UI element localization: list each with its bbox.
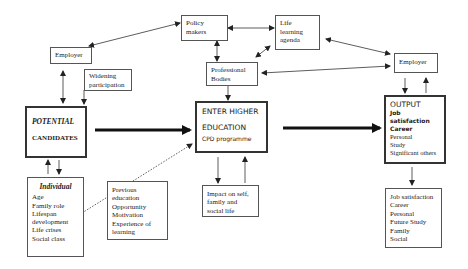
previous-line-5: Experience of — [112, 220, 163, 228]
policy-line-2: makers — [186, 28, 223, 37]
impact-line-1: Impact on self, — [207, 190, 254, 198]
lifelearning-line-2: learning — [280, 28, 315, 37]
output-line-3: Significant others — [390, 149, 440, 157]
output-title: OUTPUT — [390, 100, 440, 109]
employer-right-label: Employer — [399, 58, 433, 67]
widening-line-1: Widening — [89, 72, 127, 81]
individual-line-2: Family role — [32, 202, 79, 210]
potential-line-1: POTENTIAL — [32, 118, 81, 127]
outcomes-box: Job satisfaction Career Personal Future … — [385, 188, 442, 248]
impact-line-2: family and — [207, 198, 254, 206]
previous-line-1: Previous — [112, 186, 163, 194]
previous-line-3: Opportunity — [112, 203, 163, 211]
professional-line-2: Bodies — [211, 75, 253, 84]
life-learning-agenda-box: Life learning agenda — [275, 15, 320, 50]
enterhe-line-1: ENTER HIGHER — [202, 107, 261, 117]
outcomes-line-6: Social — [390, 235, 437, 243]
outcomes-line-5: Family — [390, 227, 437, 235]
edge-lifelearning-employer — [326, 39, 390, 54]
employer-left-box: Employer — [50, 47, 92, 64]
edge-employer-policy — [89, 23, 180, 46]
individual-box: Individual Age Family role Lifespan deve… — [27, 177, 84, 257]
impact-box: Impact on self, family and social life — [202, 185, 259, 217]
previous-education-box: Previous education Opportunity Motivatio… — [107, 181, 168, 240]
individual-line-3: Lifespan — [32, 210, 79, 218]
individual-line-1: Age — [32, 193, 79, 201]
employer-right-box: Employer — [394, 53, 438, 73]
enter-higher-education-box: ENTER HIGHER EDUCATION CPD programme — [195, 101, 268, 153]
output-line-1: Personal — [390, 133, 440, 141]
outcomes-line-2: Career — [390, 201, 437, 209]
lifelearning-line-3: agenda — [280, 36, 315, 45]
output-box: OUTPUT Job satisfaction Career Personal … — [384, 95, 446, 164]
previous-line-6: learning — [112, 228, 163, 236]
potential-candidates-box: POTENTIAL CANDIDATES — [25, 106, 87, 158]
output-line-2: Study — [390, 141, 440, 149]
output-bold-3: Career — [390, 125, 440, 133]
previous-line-4: Motivation — [112, 211, 163, 219]
widening-participation-box: Widening participation — [84, 69, 132, 91]
individual-line-6: Social class — [32, 235, 79, 243]
previous-line-2: education — [112, 194, 163, 202]
impact-line-3: social life — [207, 207, 254, 215]
edge-employer-professional — [262, 66, 390, 73]
individual-title: Individual — [32, 183, 79, 191]
individual-line-4: development — [32, 218, 79, 226]
widening-line-2: participation — [89, 81, 127, 90]
output-bold-1: Job — [390, 109, 440, 117]
policy-line-1: Policy — [186, 19, 223, 28]
outcomes-line-4: Future Study — [390, 218, 437, 226]
edge-lifelearning-professional — [256, 46, 270, 57]
lifelearning-line-1: Life — [280, 19, 315, 28]
employer-left-label: Employer — [55, 51, 87, 60]
outcomes-line-1: Job satisfaction — [390, 193, 437, 201]
individual-line-5: Life crises — [32, 226, 79, 234]
policy-makers-box: Policy makers — [181, 15, 228, 41]
potential-line-2: CANDIDATES — [32, 134, 81, 143]
enterhe-line-3: CPD programme — [202, 135, 261, 143]
output-bold-2: satisfaction — [390, 117, 440, 125]
enterhe-line-2: EDUCATION — [202, 123, 261, 133]
professional-line-1: Professional — [211, 66, 253, 75]
outcomes-line-3: Personal — [390, 210, 437, 218]
professional-bodies-box: Professional Bodies — [206, 62, 258, 86]
